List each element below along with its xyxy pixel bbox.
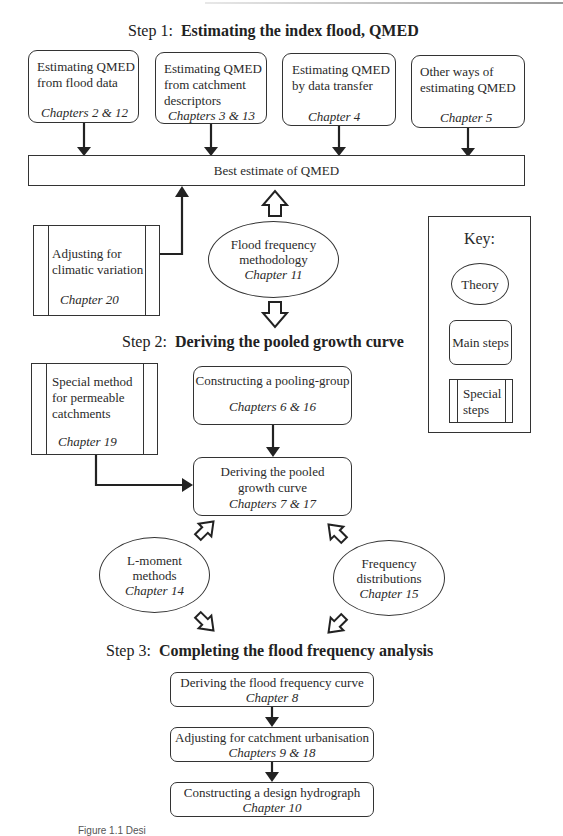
step1-box-flood-data: Estimating QMED from flood data Chapters… <box>28 50 139 123</box>
box-line1: Other ways of <box>420 64 494 79</box>
box-line1: Adjusting for <box>52 246 122 261</box>
box-line2: from flood data <box>37 75 118 90</box>
box-line1: Adjusting for catchment urbanisation <box>171 730 373 745</box>
box-line1: Deriving the pooled <box>194 464 351 479</box>
key-title: Key: <box>429 231 530 246</box>
box-chapter: Chapters 7 & 17 <box>194 496 351 511</box>
step1-title: Estimating the index flood, QMED <box>181 22 419 39</box>
box-line1: Estimating QMED <box>164 61 262 76</box>
box-chapter: Chapter 5 <box>440 110 492 125</box>
ellipse-chapter: Chapter 14 <box>125 583 184 598</box>
step2-heading: Step 2: Deriving the pooled growth curve <box>122 333 404 351</box>
ellipse-line2: methodology <box>239 252 308 267</box>
best-estimate-label: Best estimate of QMED <box>214 163 339 178</box>
ellipse-chapter: Chapter 15 <box>360 586 419 601</box>
key-legend: Key: Theory Main steps Special steps <box>428 216 531 433</box>
ellipse-line1: Frequency <box>362 556 417 571</box>
theory-ellipse-flood-frequency-methodology: Flood frequency methodology Chapter 11 <box>208 221 339 298</box>
box-line1: Estimating QMED <box>292 62 390 77</box>
box-line1: Constructing a design hydrograph <box>171 785 373 800</box>
box-chapter: Chapter 19 <box>58 434 117 449</box>
main-box-design-hydrograph: Constructing a design hydrograph Chapter… <box>170 782 374 817</box>
step2-prefix: Step 2: <box>122 333 167 350</box>
key-special-line1: Special <box>463 386 501 401</box>
key-main-steps-label: Main steps <box>452 335 509 350</box>
main-box-flood-frequency-curve: Deriving the flood frequency curve Chapt… <box>170 672 374 707</box>
box-chapter: Chapters 2 & 12 <box>41 105 128 120</box>
special-bar-left <box>457 380 458 422</box>
main-box-pooled-growth-curve: Deriving the pooled growth curve Chapter… <box>193 457 352 516</box>
box-line2: by data transfer <box>292 78 373 93</box>
theory-ellipse-l-moment: L-moment methods Chapter 14 <box>99 537 210 613</box>
box-chapter: Chapters 3 & 13 <box>168 108 255 123</box>
box-line2: from catchment <box>164 77 246 92</box>
step1-heading: Step 1: Estimating the index flood, QMED <box>128 22 419 40</box>
box-line3: catchments <box>52 406 110 421</box>
ellipse-line1: Flood frequency <box>231 237 317 252</box>
main-box-catchment-urbanisation: Adjusting for catchment urbanisation Cha… <box>170 727 374 762</box>
box-chapter: Chapters 6 & 16 <box>194 399 351 414</box>
key-special-line2: steps <box>463 402 489 417</box>
main-box-pooling-group: Constructing a pooling-group Chapters 6 … <box>193 366 352 425</box>
box-chapter: Chapter 4 <box>308 109 360 124</box>
key-special-steps-box: Special steps <box>449 379 513 423</box>
ellipse-line2: distributions <box>356 571 421 586</box>
box-chapter: Chapter 20 <box>60 292 119 307</box>
special-bar-right <box>145 226 146 315</box>
box-line1: Deriving the flood frequency curve <box>171 675 373 690</box>
ellipse-chapter: Chapter 11 <box>245 267 303 282</box>
special-box-permeable-catchments: Special method for permeable catchments … <box>31 363 158 455</box>
step3-prefix: Step 3: <box>106 642 151 659</box>
step1-prefix: Step 1: <box>128 22 173 39</box>
theory-ellipse-frequency-distributions: Frequency distributions Chapter 15 <box>333 540 445 616</box>
step1-box-data-transfer: Estimating QMED by data transfer Chapter… <box>282 53 396 126</box>
box-line1: Constructing a pooling-group <box>194 373 351 388</box>
key-theory-ellipse: Theory <box>451 263 509 305</box>
box-chapter: Chapters 9 & 18 <box>171 745 373 760</box>
box-line2: estimating QMED <box>420 80 516 95</box>
box-line2: growth curve <box>194 480 351 495</box>
step3-heading: Step 3: Completing the flood frequency a… <box>106 642 433 660</box>
step3-title: Completing the flood frequency analysis <box>159 642 433 659</box>
box-chapter: Chapter 10 <box>171 800 373 815</box>
ellipse-line2: methods <box>132 568 176 583</box>
step1-box-catchment-descriptors: Estimating QMED from catchment descripto… <box>155 52 267 124</box>
figure-caption: Figure 1.1 Desi <box>78 825 146 836</box>
special-box-climatic-variation: Adjusting for climatic variation Chapter… <box>33 225 160 316</box>
box-line1: Estimating QMED <box>37 59 135 74</box>
box-line1: Special method <box>52 374 133 389</box>
step2-title: Deriving the pooled growth curve <box>175 333 404 350</box>
box-line3: descriptors <box>164 93 221 108</box>
special-bar-right <box>505 380 506 422</box>
ellipse-line1: L-moment <box>127 553 182 568</box>
box-chapter: Chapter 8 <box>171 690 373 705</box>
box-line2: climatic variation <box>52 262 143 277</box>
key-main-steps-box: Main steps <box>449 320 512 365</box>
special-bar-left <box>46 364 47 454</box>
best-estimate-qmed-box: Best estimate of QMED <box>28 155 525 186</box>
special-bar-left <box>48 226 49 315</box>
key-theory-label: Theory <box>461 277 499 292</box>
special-bar-right <box>143 364 144 454</box>
box-line2: for permeable <box>52 390 125 405</box>
step1-box-other-ways: Other ways of estimating QMED Chapter 5 <box>411 55 525 128</box>
